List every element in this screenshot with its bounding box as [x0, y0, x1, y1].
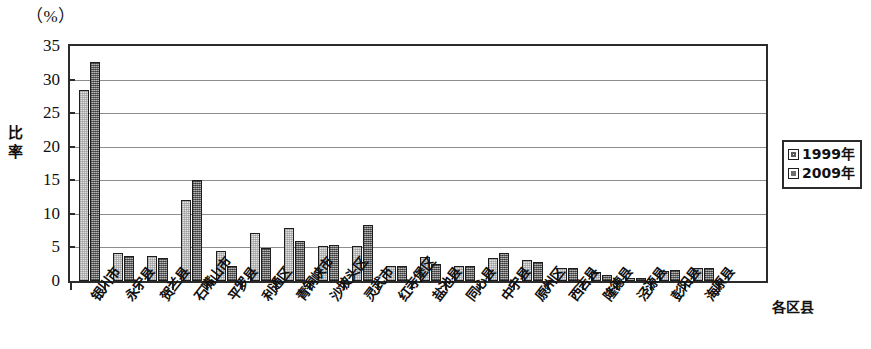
y-tick-label-20: 20	[26, 138, 60, 155]
legend-label-1999: 1999年	[802, 147, 855, 162]
bar-group	[588, 46, 622, 281]
y-tick-label-0: 0	[26, 272, 60, 289]
y-tick-label-35: 35	[26, 37, 60, 54]
legend-swatch-1999-icon	[788, 149, 799, 160]
chart-root: （%） 比率 05101520253035 银川市永宁县贺兰县石嘴山市平罗县利通…	[0, 0, 871, 349]
y-axis-title: 比率	[4, 124, 26, 162]
bar-group	[417, 46, 451, 281]
bar-group	[656, 46, 690, 281]
unit-label: （%）	[26, 2, 76, 27]
bar	[79, 90, 89, 281]
bar-group	[622, 46, 656, 281]
x-tick-mark	[70, 283, 72, 290]
bar-group	[144, 46, 178, 281]
y-tick-label-25: 25	[26, 104, 60, 121]
bar-group	[383, 46, 417, 281]
legend-swatch-2009-icon	[788, 168, 799, 179]
bar-group	[178, 46, 212, 281]
bar-group	[519, 46, 553, 281]
y-tick-label-10: 10	[26, 205, 60, 222]
bar-group	[315, 46, 349, 281]
bar-group	[281, 46, 315, 281]
bar	[192, 180, 202, 281]
bar-group	[485, 46, 519, 281]
y-tick-label-15: 15	[26, 171, 60, 188]
x-axis-title: 各区县	[772, 296, 814, 316]
bar-group	[247, 46, 281, 281]
legend-item-1999: 1999年	[788, 145, 855, 164]
bar-group	[349, 46, 383, 281]
bar-group	[554, 46, 588, 281]
bar-series-layer	[70, 46, 766, 281]
bar-group	[451, 46, 485, 281]
bar-group	[213, 46, 247, 281]
bar-group	[690, 46, 724, 281]
bar	[90, 62, 100, 281]
y-tick-label-5: 5	[26, 238, 60, 255]
y-tick-label-30: 30	[26, 71, 60, 88]
legend-item-2009: 2009年	[788, 164, 855, 183]
bar-group	[110, 46, 144, 281]
bar-group	[76, 46, 110, 281]
legend: 1999年 2009年	[782, 140, 862, 189]
legend-label-2009: 2009年	[802, 166, 855, 181]
